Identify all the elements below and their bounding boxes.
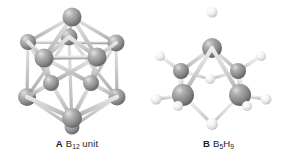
panel-b5h9: BB5H9 <box>150 0 287 166</box>
figure-canvas: AB12unit <box>0 0 287 166</box>
caption-formula-tail-sub-b: 9 <box>230 143 234 150</box>
caption-panel-b: BB5H9 <box>150 138 287 150</box>
b12-icosahedron-model <box>0 0 150 140</box>
atom-group-hydrogen-front <box>151 94 272 131</box>
panel-b12-unit: AB12unit <box>0 0 150 166</box>
b5h9-square-pyramid-model <box>150 0 287 140</box>
caption-panel-a: AB12unit <box>2 138 152 150</box>
caption-letter-b: B <box>203 138 210 149</box>
caption-letter-a: A <box>56 138 63 149</box>
caption-formula-sub-a: 12 <box>72 143 80 150</box>
caption-trailing-word-a: unit <box>82 138 98 149</box>
